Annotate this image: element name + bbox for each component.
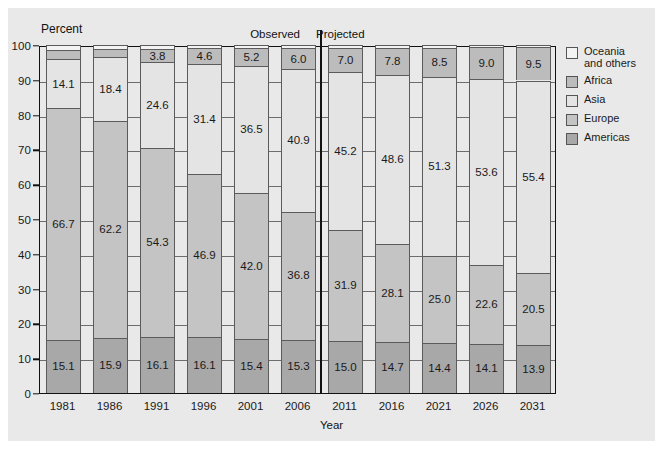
bar-segment-1991-asia[interactable]: 24.6: [140, 62, 176, 148]
bar-segment-2016-americas[interactable]: 14.7: [375, 342, 411, 393]
bar-segment-2011-europe[interactable]: 31.9: [328, 230, 364, 341]
segment-value-label: 15.4: [240, 361, 262, 373]
bar-segment-2031-africa[interactable]: 9.5: [516, 47, 552, 80]
bar-segment-2001-oceania-and-others[interactable]: [234, 45, 270, 48]
segment-value-label: 66.7: [52, 219, 74, 231]
bar-segment-2031-asia[interactable]: 55.4: [516, 81, 552, 274]
bar-segment-2001-africa[interactable]: 5.2: [234, 48, 270, 66]
bar-segment-2026-americas[interactable]: 14.1: [469, 344, 505, 393]
bar-1981[interactable]: 15.166.714.1: [46, 45, 82, 393]
bar-segment-1996-oceania-and-others[interactable]: [187, 45, 223, 48]
bar-1991[interactable]: 16.154.324.63.8: [140, 45, 176, 393]
annotation-projected: Projected: [316, 28, 365, 40]
bar-2011[interactable]: 15.031.945.27.0: [328, 45, 364, 393]
segment-value-label: 5.2: [243, 52, 259, 64]
y-tick-label-90: 90: [18, 75, 31, 87]
bar-segment-2021-americas[interactable]: 14.4: [422, 343, 458, 393]
bar-segment-2001-europe[interactable]: 42.0: [234, 193, 270, 339]
x-tick-label-1996: 1996: [191, 400, 217, 412]
bar-segment-2016-asia[interactable]: 48.6: [375, 75, 411, 244]
legend-label-line2: and others: [584, 58, 636, 70]
bar-2021[interactable]: 14.425.051.38.5: [422, 45, 458, 393]
bar-segment-1981-americas[interactable]: 15.1: [46, 340, 82, 393]
bar-2026[interactable]: 14.122.653.69.0: [469, 45, 505, 393]
bar-1996[interactable]: 16.146.931.44.6: [187, 45, 223, 393]
bar-segment-1981-africa[interactable]: [46, 50, 82, 59]
bar-segment-2011-americas[interactable]: 15.0: [328, 341, 364, 393]
bar-2031[interactable]: 13.920.555.49.5: [516, 45, 552, 393]
bar-segment-2006-americas[interactable]: 15.3: [281, 340, 317, 393]
bar-segment-2031-oceania-and-others[interactable]: [516, 45, 552, 47]
y-tick-label-80: 80: [18, 110, 31, 122]
legend-item-europe[interactable]: Europe: [566, 113, 658, 126]
x-tick-label-1981: 1981: [50, 400, 76, 412]
bar-segment-1991-africa[interactable]: 3.8: [140, 49, 176, 62]
legend-item-americas[interactable]: Americas: [566, 132, 658, 145]
segment-value-label: 28.1: [381, 288, 403, 300]
plot-area: 15.166.714.115.962.218.416.154.324.63.81…: [39, 46, 556, 394]
bar-segment-2021-oceania-and-others[interactable]: [422, 45, 458, 48]
bar-segment-1996-americas[interactable]: 16.1: [187, 337, 223, 393]
bar-2001[interactable]: 15.442.036.55.2: [234, 45, 270, 393]
y-tick-label-100: 100: [12, 40, 32, 52]
bar-segment-2016-oceania-and-others[interactable]: [375, 45, 411, 48]
bar-segment-2016-europe[interactable]: 28.1: [375, 244, 411, 342]
bar-segment-1986-africa[interactable]: [93, 49, 129, 57]
legend-item-oceania[interactable]: Oceaniaand others: [566, 46, 658, 69]
bar-segment-2006-oceania-and-others[interactable]: [281, 45, 317, 48]
bar-segment-1986-americas[interactable]: 15.9: [93, 338, 129, 393]
y-tick-label-70: 70: [18, 144, 31, 156]
bar-segment-1996-europe[interactable]: 46.9: [187, 174, 223, 337]
bar-segment-1996-africa[interactable]: 4.6: [187, 48, 223, 64]
bar-segment-1981-oceania-and-others[interactable]: [46, 45, 82, 50]
bar-segment-2006-europe[interactable]: 36.8: [281, 212, 317, 340]
legend-label: Africa: [584, 75, 612, 87]
segment-value-label: 40.9: [287, 135, 309, 147]
y-tick-label-50: 50: [18, 214, 31, 226]
segment-value-label: 16.1: [146, 360, 168, 372]
segment-value-label: 15.3: [287, 361, 309, 373]
bar-segment-2026-asia[interactable]: 53.6: [469, 79, 505, 266]
bar-segment-2001-americas[interactable]: 15.4: [234, 339, 270, 393]
bar-segment-2026-oceania-and-others[interactable]: [469, 45, 505, 47]
bar-segment-1991-oceania-and-others[interactable]: [140, 45, 176, 49]
bar-segment-2006-asia[interactable]: 40.9: [281, 69, 317, 211]
segment-value-label: 3.8: [149, 51, 165, 63]
legend-item-africa[interactable]: Africa: [566, 75, 658, 88]
bar-segment-2011-oceania-and-others[interactable]: [328, 45, 364, 48]
bar-segment-1986-asia[interactable]: 18.4: [93, 57, 129, 121]
bar-segment-1991-americas[interactable]: 16.1: [140, 337, 176, 393]
bar-segment-2011-africa[interactable]: 7.0: [328, 48, 364, 72]
y-tick-label-20: 20: [18, 318, 31, 330]
bar-segment-2031-europe[interactable]: 20.5: [516, 273, 552, 344]
bar-segment-1991-europe[interactable]: 54.3: [140, 148, 176, 337]
bar-segment-2006-africa[interactable]: 6.0: [281, 48, 317, 69]
y-tick-label-0: 0: [25, 388, 32, 400]
bar-segment-2016-africa[interactable]: 7.8: [375, 48, 411, 75]
bar-segment-2021-africa[interactable]: 8.5: [422, 48, 458, 78]
legend-swatch-icon: [566, 114, 578, 126]
bar-segment-1986-europe[interactable]: 62.2: [93, 121, 129, 337]
bar-segment-2021-europe[interactable]: 25.0: [422, 256, 458, 343]
bar-segment-2026-africa[interactable]: 9.0: [469, 47, 505, 78]
bar-2016[interactable]: 14.728.148.67.8: [375, 45, 411, 393]
bar-segment-1981-europe[interactable]: 66.7: [46, 108, 82, 340]
x-tick-label-2016: 2016: [379, 400, 405, 412]
bar-segment-1981-asia[interactable]: 14.1: [46, 59, 82, 108]
bar-segment-2001-asia[interactable]: 36.5: [234, 66, 270, 193]
x-tick-label-2031: 2031: [520, 400, 546, 412]
bar-segment-1996-asia[interactable]: 31.4: [187, 64, 223, 173]
segment-value-label: 15.1: [52, 361, 74, 373]
x-tick-label-2021: 2021: [426, 400, 452, 412]
legend-item-asia[interactable]: Asia: [566, 94, 658, 107]
legend-label: Asia: [584, 94, 605, 106]
bar-segment-2011-asia[interactable]: 45.2: [328, 72, 364, 229]
bar-segment-2026-europe[interactable]: 22.6: [469, 265, 505, 344]
bar-segment-1986-oceania-and-others[interactable]: [93, 45, 129, 49]
bar-2006[interactable]: 15.336.840.96.0: [281, 45, 317, 393]
bar-1986[interactable]: 15.962.218.4: [93, 45, 129, 393]
bar-segment-2021-asia[interactable]: 51.3: [422, 77, 458, 256]
bar-segment-2031-americas[interactable]: 13.9: [516, 345, 552, 393]
y-axis: 0102030405060708090100: [0, 46, 39, 394]
segment-value-label: 31.4: [193, 114, 215, 126]
